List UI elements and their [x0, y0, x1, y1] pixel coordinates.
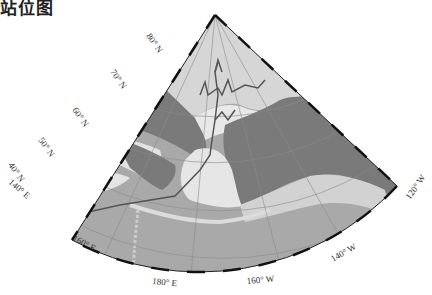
lat-label-50n: 50° N — [36, 135, 57, 159]
lon-label-140w: 140° W — [329, 241, 358, 264]
lat-label-70n: 70° N — [108, 67, 129, 91]
lat-label-60n: 60° N — [70, 105, 91, 129]
station-map: 80° N 70° N 60° N 50° N 40° N 140° E 160… — [0, 0, 432, 295]
lon-label-180e: 180° E — [152, 276, 178, 288]
lon-label-160w: 160° W — [246, 274, 275, 286]
lat-label-80n: 80° N — [144, 31, 165, 55]
lon-label-120w: 120° W — [403, 172, 427, 201]
